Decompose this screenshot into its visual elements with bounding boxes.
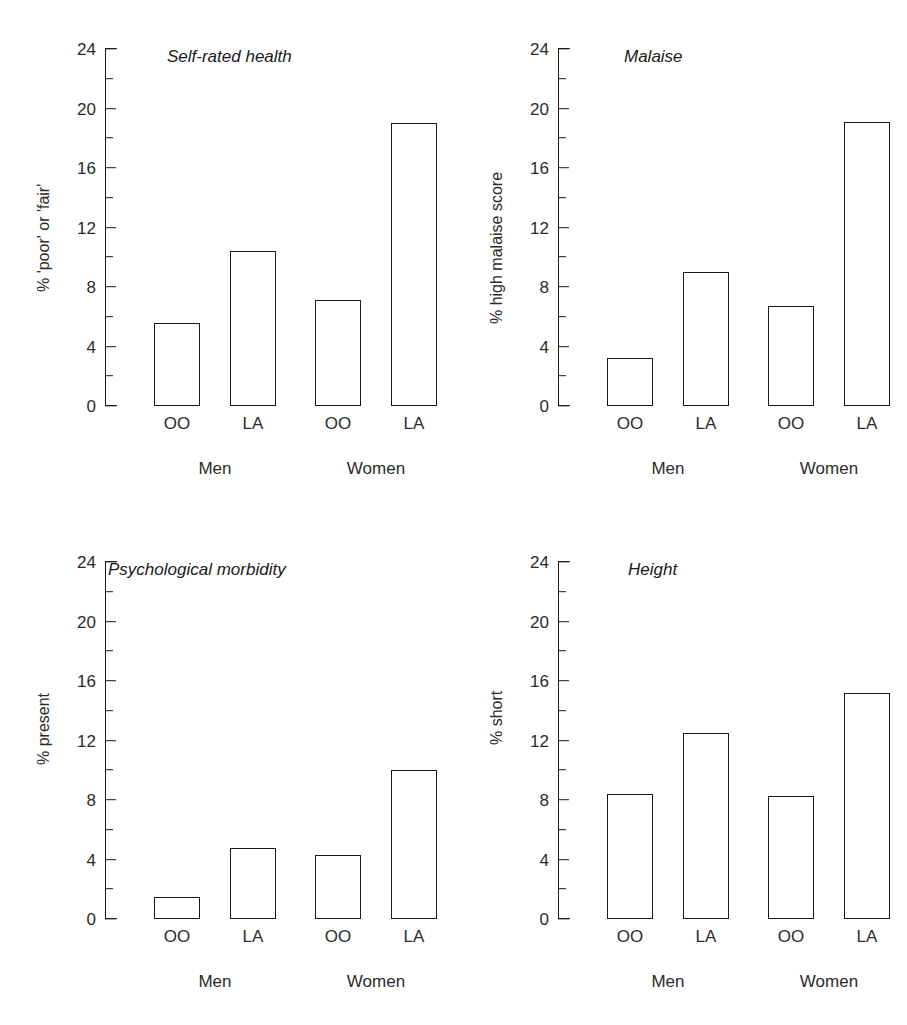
y-axis-tick: 24 (558, 48, 569, 49)
y-axis-minor-tick (105, 650, 113, 651)
y-axis-label: % short (489, 691, 505, 745)
y-axis-minor-tick (558, 137, 566, 138)
y-axis-minor-tick (558, 78, 566, 79)
y-axis-minor-tick (105, 375, 113, 376)
category-label: LA (857, 928, 878, 945)
y-axis-tick: 12 (105, 227, 116, 228)
figure-four-panel-bar-charts: Self-rated health % 'poor' or 'fair' 048… (0, 0, 907, 1025)
group-label-women: Women (347, 460, 405, 477)
y-axis-label: % 'poor' or 'fair' (36, 184, 52, 292)
bar-men-la (683, 272, 729, 406)
bar-women-oo (315, 855, 361, 919)
y-axis-tick-label: 12 (77, 219, 96, 236)
y-axis-tick: 12 (105, 740, 116, 741)
y-axis-minor-tick (558, 710, 566, 711)
y-axis-tick-label: 8 (87, 279, 96, 296)
group-label-men: Men (651, 460, 684, 477)
y-axis-tick: 16 (105, 167, 116, 168)
bar-men-la (230, 848, 276, 919)
y-axis-tick: 8 (105, 799, 116, 800)
y-axis-minor-tick (558, 769, 566, 770)
group-label-women: Women (800, 460, 858, 477)
y-axis-minor-tick (558, 591, 566, 592)
category-label: LA (404, 415, 425, 432)
y-axis-tick: 0 (105, 918, 116, 919)
y-axis-minor-tick (105, 769, 113, 770)
y-axis-tick-label: 0 (87, 398, 96, 415)
category-label: LA (243, 415, 264, 432)
bar-women-la (391, 770, 437, 919)
y-axis-tick: 20 (558, 108, 569, 109)
y-axis-tick-label: 20 (77, 613, 96, 630)
bar-men-oo (154, 323, 200, 406)
y-axis-tick: 0 (105, 405, 116, 406)
y-axis-tick-label: 20 (530, 100, 549, 117)
y-axis-tick: 24 (105, 561, 116, 562)
y-axis-tick-label: 12 (530, 732, 549, 749)
y-axis-minor-tick (558, 256, 566, 257)
category-label: OO (617, 415, 643, 432)
y-axis-tick: 4 (105, 859, 116, 860)
plot-area: 04812162024 OOLAOOLA MenWomen (105, 562, 435, 919)
y-axis-tick: 16 (558, 680, 569, 681)
y-axis-tick: 12 (558, 740, 569, 741)
y-axis-tick: 16 (558, 167, 569, 168)
y-axis-tick: 0 (558, 918, 569, 919)
y-axis-tick: 12 (558, 227, 569, 228)
category-label: LA (696, 415, 717, 432)
y-axis-tick-label: 20 (77, 100, 96, 117)
group-label-men: Men (198, 460, 231, 477)
y-axis-minor-tick (558, 197, 566, 198)
plot-area: 04812162024 OOLAOOLA MenWomen (558, 562, 888, 919)
panel-psychological-morbidity: Psychological morbidity % present 048121… (0, 513, 453, 1025)
y-axis-tick-label: 16 (530, 160, 549, 177)
y-axis-minor-tick (105, 316, 113, 317)
y-axis-tick: 4 (105, 346, 116, 347)
y-axis-tick-label: 12 (77, 732, 96, 749)
bar-men-oo (607, 358, 653, 406)
y-axis-tick-label: 4 (87, 851, 96, 868)
bar-women-oo (768, 796, 814, 919)
category-label: OO (164, 928, 190, 945)
y-axis-tick: 4 (558, 859, 569, 860)
y-axis-tick: 8 (105, 286, 116, 287)
bar-women-oo (768, 306, 814, 406)
y-axis-minor-tick (558, 888, 566, 889)
y-axis-tick: 16 (105, 680, 116, 681)
y-axis-tick-label: 8 (540, 792, 549, 809)
y-axis-tick-label: 16 (77, 673, 96, 690)
group-label-men: Men (651, 973, 684, 990)
y-axis-tick-label: 0 (540, 911, 549, 928)
y-axis-tick-label: 4 (87, 338, 96, 355)
category-label: OO (778, 928, 804, 945)
plot-area: 04812162024 OOLAOOLA MenWomen (558, 49, 888, 406)
category-label: OO (778, 415, 804, 432)
group-label-women: Women (800, 973, 858, 990)
y-axis-tick-label: 0 (87, 911, 96, 928)
y-axis-tick-label: 0 (540, 398, 549, 415)
category-label: LA (243, 928, 264, 945)
y-axis-tick-label: 8 (540, 279, 549, 296)
bar-women-la (391, 123, 437, 406)
panel-malaise: Malaise % high malaise score 04812162024… (453, 0, 906, 512)
category-label: LA (857, 415, 878, 432)
y-axis-tick: 8 (558, 286, 569, 287)
y-axis-tick-label: 8 (87, 792, 96, 809)
y-axis-minor-tick (558, 650, 566, 651)
bar-women-la (844, 122, 890, 406)
y-axis-tick-label: 4 (540, 851, 549, 868)
y-axis-tick: 20 (105, 621, 116, 622)
y-axis-minor-tick (105, 829, 113, 830)
y-axis-tick: 20 (558, 621, 569, 622)
y-axis-minor-tick (105, 137, 113, 138)
bar-men-oo (154, 897, 200, 919)
y-axis-tick-label: 16 (530, 673, 549, 690)
y-axis-tick: 24 (105, 48, 116, 49)
bar-women-la (844, 693, 890, 919)
group-label-men: Men (198, 973, 231, 990)
category-label: OO (164, 415, 190, 432)
bar-women-oo (315, 300, 361, 406)
bar-men-oo (607, 794, 653, 919)
plot-area: 04812162024 OOLAOOLA MenWomen (105, 49, 435, 406)
y-axis-tick: 0 (558, 405, 569, 406)
